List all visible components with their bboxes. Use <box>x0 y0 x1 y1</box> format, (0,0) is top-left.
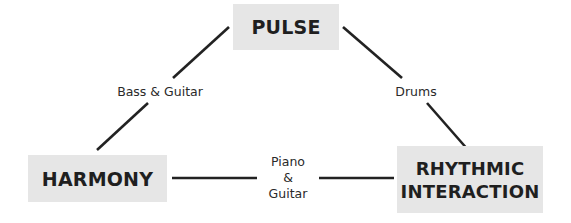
node-pulse: PULSE <box>233 4 339 50</box>
edge-label-ampersand: & <box>258 170 318 186</box>
node-rhythmic-interaction: RHYTHMIC INTERACTION <box>397 146 543 213</box>
node-harmony: HARMONY <box>28 155 167 202</box>
edge-label-piano: Piano <box>258 154 318 170</box>
edge-pulse-rhythmic-lower <box>427 103 469 151</box>
edge-label-piano-guitar: Piano & Guitar <box>258 154 318 202</box>
edge-pulse-harmony-upper <box>173 27 229 78</box>
node-harmony-label: HARMONY <box>42 168 153 190</box>
node-rhythmic-line1: RHYTHMIC <box>416 157 525 180</box>
node-rhythmic-line2: INTERACTION <box>401 180 540 203</box>
edge-pulse-harmony-lower <box>97 103 148 150</box>
node-pulse-label: PULSE <box>251 16 320 38</box>
edge-label-bass-guitar: Bass & Guitar <box>110 84 210 100</box>
edge-pulse-rhythmic-upper <box>343 27 402 78</box>
edge-label-guitar: Guitar <box>258 186 318 202</box>
edge-label-drums: Drums <box>386 84 446 100</box>
